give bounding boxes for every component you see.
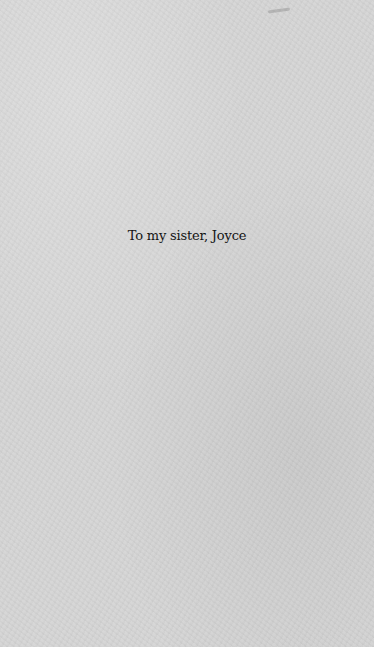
paper-smudge-mark [268,7,290,13]
dedication-text: To my sister, Joyce [0,228,374,244]
book-page: To my sister, Joyce [0,0,374,647]
